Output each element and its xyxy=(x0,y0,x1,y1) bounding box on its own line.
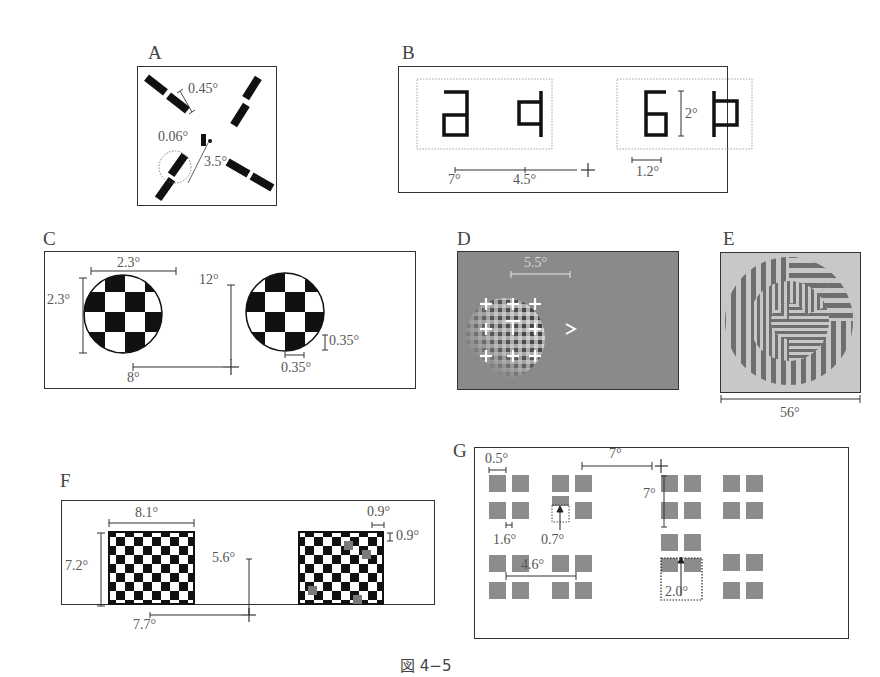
dim-a-bar-width: 0.06° xyxy=(158,129,188,145)
panel-d: 5.5° xyxy=(457,251,679,390)
dim-f-board-height: 7.2° xyxy=(65,558,88,574)
dim-b-glyph-height: 2° xyxy=(685,106,698,122)
panel-c-stimulus xyxy=(45,252,417,390)
dim-c-check-width: 0.35° xyxy=(281,360,311,376)
dim-g-square-size: 0.5° xyxy=(485,451,508,467)
panel-e xyxy=(720,252,861,393)
panel-g-stimulus xyxy=(475,448,850,640)
panel-b-label: B xyxy=(402,42,415,64)
dim-c-patch-height: 2.3° xyxy=(47,292,70,308)
dim-g-large-shift: 2.0° xyxy=(665,584,688,600)
dim-b-eccentricity-outer: 7° xyxy=(448,172,461,188)
dim-g-cluster-spacing: 4.6° xyxy=(521,557,544,573)
dim-c-vertical-eccentricity: 12° xyxy=(199,272,219,288)
panel-a: 0.45° 0.06° 3.5° xyxy=(137,66,277,206)
dim-g-small-shift: 0.7° xyxy=(541,532,564,548)
dim-b-glyph-width: 1.2° xyxy=(636,164,659,180)
dim-b-eccentricity-inner: 4.5° xyxy=(513,172,536,188)
panel-e-stimulus xyxy=(721,253,862,394)
dim-f-check-width: 0.9° xyxy=(367,504,390,520)
dim-f-vertical-eccentricity: 5.6° xyxy=(212,550,235,566)
dim-g-vertical-eccentricity: 7° xyxy=(643,486,656,502)
panel-d-label: D xyxy=(457,228,471,250)
dim-e-field-width: 56° xyxy=(780,405,800,421)
panel-a-label: A xyxy=(148,42,162,64)
dim-g-gap: 1.6° xyxy=(493,532,516,548)
dim-c-check-height: 0.35° xyxy=(329,333,359,349)
panel-e-label: E xyxy=(723,228,735,250)
dim-a-bar-length: 0.45° xyxy=(188,81,218,97)
panel-c-label: C xyxy=(43,228,56,250)
dim-c-patch-width: 2.3° xyxy=(117,255,140,271)
dim-f-board-width: 8.1° xyxy=(135,505,158,521)
panel-f: 8.1° 7.2° 5.6° 7.7° 0.9° 0.9° xyxy=(61,500,435,605)
dim-g-horizontal-eccentricity: 7° xyxy=(609,446,622,462)
dim-a-eccentricity: 3.5° xyxy=(204,154,227,170)
panel-b: 7° 4.5° 2° 1.2° xyxy=(398,66,728,193)
panel-c: 2.3° 2.3° 12° 8° 0.35° 0.35° xyxy=(44,251,416,389)
panel-f-label: F xyxy=(60,470,71,492)
dim-f-horizontal-eccentricity: 7.7° xyxy=(133,617,156,633)
dim-f-check-height: 0.9° xyxy=(396,528,419,544)
dim-c-horizontal-eccentricity: 8° xyxy=(127,370,140,386)
panel-g: 7° 7° 0.5° 1.6° 0.7° 4.6° 2.0° xyxy=(474,447,849,639)
panel-g-label: G xyxy=(453,440,467,462)
panel-d-stimulus xyxy=(458,252,680,391)
dim-d-spacing: 5.5° xyxy=(524,255,547,271)
figure-caption: 図 4−5 xyxy=(400,654,451,675)
